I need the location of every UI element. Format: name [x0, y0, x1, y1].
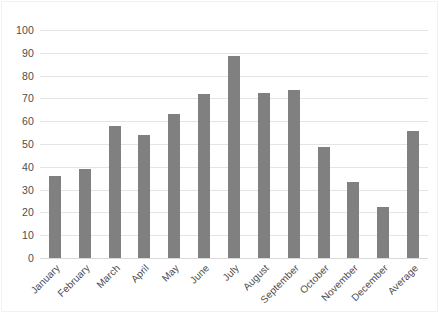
bar-december [377, 207, 389, 258]
x-label-slot: June [189, 260, 219, 313]
bar-slot [309, 30, 339, 258]
bar-series [40, 30, 428, 258]
y-tick-label-40: 40 [22, 162, 34, 173]
bar-slot [100, 30, 130, 258]
x-label-slot: February [70, 260, 100, 313]
bar-august [258, 93, 270, 258]
y-tick-label-70: 70 [22, 93, 34, 104]
x-tick-label-june: June [189, 263, 212, 286]
bar-slot [368, 30, 398, 258]
y-tick-label-90: 90 [22, 48, 34, 59]
bar-average [407, 131, 419, 258]
y-tick-label-10: 10 [22, 230, 34, 241]
y-tick-label-20: 20 [22, 207, 34, 218]
bar-november [347, 182, 359, 258]
x-label-slot: May [159, 260, 189, 313]
bar-slot [338, 30, 368, 258]
bar-slot [70, 30, 100, 258]
x-tick-label-april: April [130, 263, 152, 285]
bar-slot [279, 30, 309, 258]
y-tick-label-100: 100 [16, 25, 34, 36]
bar-slot [249, 30, 279, 258]
x-tick-label-july: July [221, 263, 241, 283]
bar-october [318, 147, 330, 258]
bar-slot [398, 30, 428, 258]
x-axis-labels: JanuaryFebruaryMarchAprilMayJuneJulyAugu… [40, 260, 428, 313]
bar-june [198, 94, 210, 258]
bar-chart: 0102030405060708090100 JanuaryFebruaryMa… [0, 0, 439, 313]
bar-slot [159, 30, 189, 258]
x-label-slot: March [100, 260, 130, 313]
y-tick-label-30: 30 [22, 184, 34, 195]
gridline-0 [40, 258, 428, 259]
y-axis-labels: 0102030405060708090100 [0, 30, 34, 258]
bar-february [79, 169, 91, 258]
bar-april [138, 135, 150, 258]
y-tick-label-50: 50 [22, 139, 34, 150]
bar-slot [219, 30, 249, 258]
bar-july [228, 56, 240, 258]
x-label-slot: April [130, 260, 160, 313]
y-tick-label-80: 80 [22, 70, 34, 81]
bar-march [109, 126, 121, 258]
bar-september [288, 90, 300, 258]
x-label-slot: Average [398, 260, 428, 313]
y-tick-label-60: 60 [22, 116, 34, 127]
y-tick-label-0: 0 [28, 253, 34, 264]
x-tick-label-may: May [161, 263, 182, 284]
bar-january [49, 176, 61, 258]
bar-slot [130, 30, 160, 258]
bar-slot [189, 30, 219, 258]
bar-slot [40, 30, 70, 258]
bar-may [168, 114, 180, 258]
